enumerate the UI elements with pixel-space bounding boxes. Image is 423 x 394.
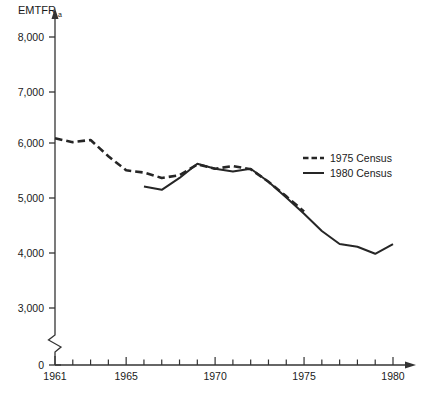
x-tick-label-1980: 1980 [381,370,405,382]
chart-container: EMTFR a 8,000 7,000 6,000 5,000 4,000 3,… [0,0,423,394]
y-axis-label: EMTFR [18,4,56,16]
x-axis-tick-labels: 19611965197019751980 [43,370,405,382]
y-tick-label-4000: 4,000 [18,247,44,259]
y-axis-label-subscript: a [58,11,62,18]
y-axis-break-icon [49,330,62,357]
x-tick-label-1965: 1965 [114,370,138,382]
y-tick-label-7000: 7,000 [18,86,44,98]
y-tick-label-6000: 6,000 [18,137,44,149]
legend-label-1980-census: 1980 Census [330,167,392,179]
y-tick-label-5000: 5,000 [18,192,44,204]
legend: 1975 Census 1980 Census [303,152,392,179]
x-tick-label-1961: 1961 [43,370,67,382]
x-axis [55,362,416,369]
y-tick-label-3000: 3,000 [18,302,44,314]
y-tick-label-8000: 8,000 [18,31,44,43]
x-tick-label-1975: 1975 [292,370,316,382]
series-line-1975-census [55,138,304,211]
line-chart: EMTFR a 8,000 7,000 6,000 5,000 4,000 3,… [0,0,423,394]
y-axis [52,8,59,365]
x-tick-label-1970: 1970 [203,370,227,382]
x-axis-ticks [55,357,393,365]
legend-label-1975-census: 1975 Census [330,152,392,164]
